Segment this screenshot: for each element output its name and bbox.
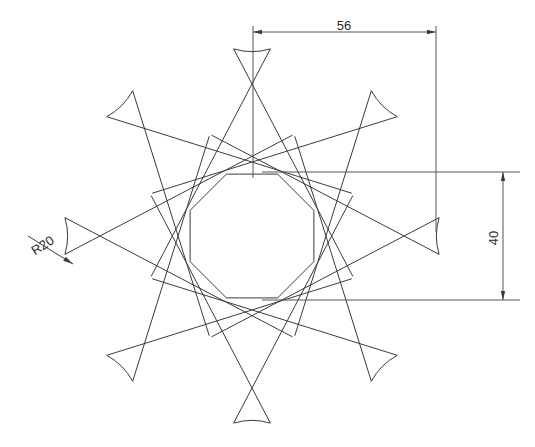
dimension-label-40: 40 xyxy=(486,231,501,245)
technical-drawing-canvas: 56 40 R20 xyxy=(0,0,535,447)
arrowhead-left-icon xyxy=(253,30,262,34)
arrowhead-bottom-icon xyxy=(501,291,505,300)
rosette-petal xyxy=(65,135,292,337)
rosette-petal xyxy=(212,135,439,337)
hub-polygon xyxy=(190,174,314,298)
rosette-petal-group xyxy=(65,49,439,423)
arrowhead-top-icon xyxy=(501,172,505,181)
dimension-height-40: 40 xyxy=(262,172,520,300)
inner-polygon-outline xyxy=(190,174,314,298)
rosette-petal xyxy=(151,49,353,276)
drawing-svg: 56 40 R20 xyxy=(0,0,535,447)
dimension-label-r20: R20 xyxy=(28,232,56,258)
dimension-label-56: 56 xyxy=(337,18,351,33)
dimension-width-56: 56 xyxy=(253,18,436,232)
arrowhead-leader-icon xyxy=(63,257,73,264)
rosette-petal xyxy=(151,196,353,423)
arrowhead-right-icon xyxy=(427,30,436,34)
